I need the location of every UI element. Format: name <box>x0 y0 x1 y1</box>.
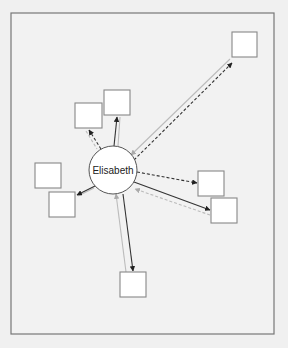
node-box[interactable] <box>232 32 257 57</box>
network-diagram: Elisabeth <box>0 0 288 348</box>
node-box[interactable] <box>75 103 102 128</box>
node-box[interactable] <box>49 192 75 217</box>
node-box[interactable] <box>104 90 130 115</box>
node-box[interactable] <box>211 198 237 223</box>
node-box[interactable] <box>198 171 224 196</box>
node-box[interactable] <box>35 163 61 188</box>
center-node-label: Elisabeth <box>92 165 133 176</box>
node-box[interactable] <box>120 272 146 297</box>
